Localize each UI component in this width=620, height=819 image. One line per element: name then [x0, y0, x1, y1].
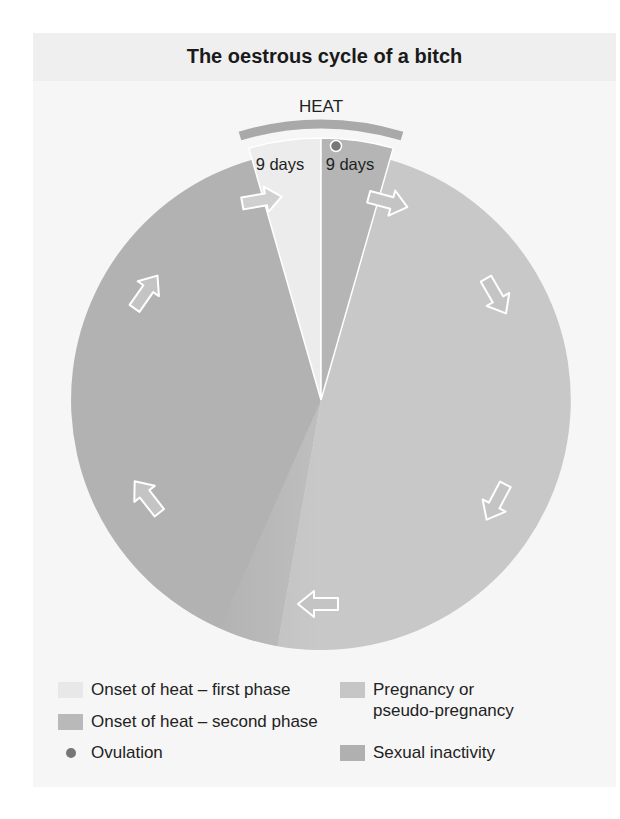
- second-phase-days-label: 9 days: [326, 155, 375, 173]
- ovulation-dot: [331, 141, 342, 152]
- oestrous-cycle-pie: HEAT 9 days 9 days: [0, 0, 620, 819]
- heat-label: HEAT: [299, 97, 343, 116]
- first-phase-days-label: 9 days: [256, 155, 305, 173]
- heat-arc: [240, 124, 402, 136]
